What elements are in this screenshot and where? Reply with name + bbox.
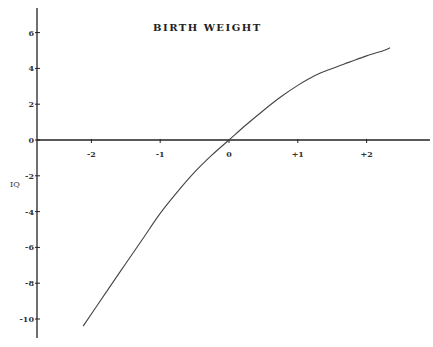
x-tick-label: +1 xyxy=(292,149,304,159)
y-tick-label: -10 xyxy=(20,314,35,324)
line-chart: BIRTH WEIGHT 6420-2-4-6-8-10-2-10+1+2 IQ xyxy=(0,0,433,347)
y-tick-label: -4 xyxy=(25,207,34,217)
x-tick-label: -1 xyxy=(156,149,165,159)
y-tick-label: -2 xyxy=(25,171,34,181)
x-tick-label: 0 xyxy=(226,149,232,159)
y-tick-label: 0 xyxy=(28,135,34,145)
y-axis-label: IQ xyxy=(10,180,20,189)
x-tick-label: -2 xyxy=(87,149,96,159)
tick-labels: 6420-2-4-6-8-10-2-10+1+2 xyxy=(20,28,373,324)
y-tick-label: -8 xyxy=(25,278,34,288)
axes xyxy=(35,8,430,338)
x-tick-label: +2 xyxy=(360,149,372,159)
y-tick-label: 4 xyxy=(28,63,34,73)
data-line xyxy=(83,48,390,326)
y-tick-label: 2 xyxy=(28,99,34,109)
chart-title: BIRTH WEIGHT xyxy=(153,22,262,33)
y-tick-label: -6 xyxy=(25,242,34,252)
y-tick-label: 6 xyxy=(28,28,34,38)
